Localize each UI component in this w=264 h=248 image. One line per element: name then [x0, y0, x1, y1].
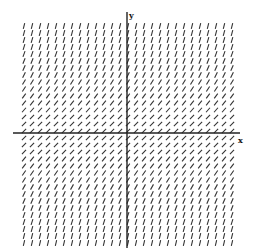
slope-segment	[22, 136, 26, 140]
slope-segment	[39, 212, 41, 218]
slope-segment	[190, 101, 194, 106]
slope-segment	[206, 115, 210, 119]
slope-segment	[87, 212, 89, 218]
slope-segment	[207, 205, 209, 211]
slope-segment	[215, 23, 216, 29]
slope-segment	[86, 136, 90, 140]
slope-segment	[175, 65, 178, 70]
slope-segment	[142, 164, 146, 169]
slope-segment	[63, 191, 66, 196]
slope-segment	[78, 79, 81, 84]
slope-segment	[30, 79, 33, 84]
slope-segment	[119, 30, 121, 36]
slope-segment	[183, 23, 184, 29]
slope-segment	[62, 164, 66, 169]
slope-segment	[174, 101, 178, 106]
slope-segment	[46, 79, 49, 84]
slope-segment	[78, 94, 82, 99]
slope-segment	[215, 240, 216, 246]
slope-segment	[38, 164, 42, 169]
slope-segment	[102, 79, 105, 84]
slope-segment	[191, 226, 193, 232]
slope-segment	[86, 150, 90, 154]
slope-segment	[231, 72, 234, 77]
slope-segments	[22, 23, 234, 246]
slope-segment	[215, 44, 217, 50]
slope-segment	[158, 86, 161, 91]
slope-segment	[79, 226, 81, 232]
slope-segment	[47, 198, 49, 204]
slope-segment	[103, 72, 106, 77]
slope-segment	[31, 58, 33, 64]
slope-segment	[87, 205, 89, 211]
slope-segment	[151, 51, 153, 57]
slope-segment	[214, 108, 218, 113]
slope-segment	[151, 58, 153, 64]
slope-segment	[206, 150, 210, 154]
slope-segment	[190, 143, 194, 147]
slope-segment	[46, 164, 50, 169]
slope-segment	[87, 65, 90, 70]
slope-segment	[103, 58, 105, 64]
slope-segment	[207, 212, 209, 218]
slope-segment	[167, 205, 169, 211]
slope-segment	[71, 219, 73, 225]
slope-segment	[54, 94, 58, 99]
slope-segment	[111, 51, 113, 57]
slope-segment	[142, 79, 145, 84]
slope-segment	[134, 157, 138, 162]
slope-segment	[182, 86, 185, 91]
slope-segment	[167, 233, 168, 239]
slope-segment	[150, 86, 153, 91]
slope-segment	[222, 94, 226, 99]
slope-segment	[71, 37, 73, 43]
slope-segment	[150, 115, 154, 119]
slope-segment	[118, 136, 122, 140]
slope-segment	[207, 37, 209, 43]
slope-segment	[94, 115, 98, 119]
slope-segment	[111, 44, 113, 50]
slope-segment	[191, 198, 193, 204]
slope-segment	[174, 79, 177, 84]
slope-segment	[175, 219, 177, 225]
slope-segment	[174, 108, 178, 113]
slope-segment	[223, 72, 226, 77]
slope-segment	[167, 72, 170, 77]
slope-segment	[215, 72, 218, 77]
slope-segment	[47, 30, 49, 36]
slope-segment	[158, 101, 162, 106]
slope-segment	[102, 108, 106, 113]
slope-segment	[63, 30, 65, 36]
slope-segment	[110, 136, 114, 140]
slope-segment	[215, 184, 218, 189]
slope-segment	[206, 122, 210, 126]
slope-segment	[118, 157, 122, 162]
slope-segment	[94, 136, 98, 140]
slope-segment	[214, 79, 217, 84]
slope-segment	[23, 51, 25, 57]
slope-segment	[166, 115, 170, 119]
slope-segment	[110, 164, 114, 169]
slope-segment	[79, 212, 81, 218]
slope-segment	[206, 164, 210, 169]
slope-segment	[63, 23, 64, 29]
slope-segment	[190, 79, 193, 84]
slope-segment	[22, 122, 26, 126]
slope-segment	[199, 65, 202, 70]
slope-segment	[118, 94, 122, 99]
slope-segment	[31, 44, 33, 50]
slope-segment	[135, 226, 137, 232]
slope-segment	[159, 233, 160, 239]
slope-segment	[46, 86, 49, 91]
slope-segment	[231, 233, 232, 239]
slope-segment	[23, 30, 25, 36]
slope-segment	[55, 37, 57, 43]
slope-segment	[206, 171, 209, 176]
slope-segment	[142, 115, 146, 119]
slope-segment	[134, 86, 137, 91]
slope-segment	[135, 219, 137, 225]
slope-segment	[55, 212, 57, 218]
slope-segment	[103, 51, 105, 57]
slope-segment	[174, 86, 177, 91]
slope-segment	[55, 44, 57, 50]
